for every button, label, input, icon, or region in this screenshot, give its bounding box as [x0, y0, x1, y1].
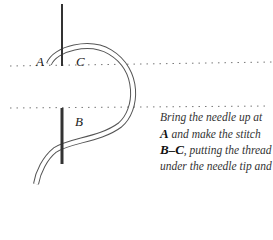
- caption-bold-bc: B–C: [160, 142, 184, 157]
- label-b: B: [75, 114, 83, 130]
- caption-text: and make the stitch: [169, 128, 261, 140]
- label-c: C: [76, 54, 85, 70]
- label-a: A: [36, 54, 44, 70]
- caption-line-3: B–C, putting the thread: [160, 142, 273, 159]
- caption-bold-a: A: [160, 126, 169, 141]
- caption-line-2: A and make the stitch: [160, 126, 273, 143]
- caption-line-4: under the needle tip and: [160, 159, 273, 175]
- caption-text: , putting the thread: [184, 144, 272, 156]
- caption-line-1: Bring the needle up at: [160, 110, 273, 126]
- instruction-caption: Bring the needle up at A and make the st…: [160, 110, 273, 174]
- lower-dotted-line: [10, 106, 270, 108]
